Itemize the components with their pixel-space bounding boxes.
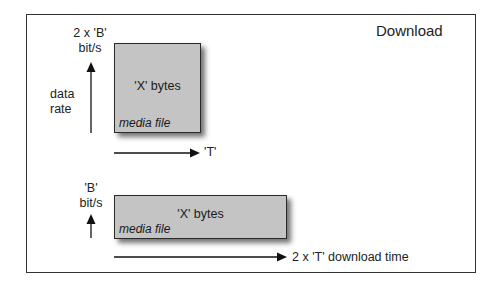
bottom-horizontal-arrow-icon — [114, 253, 287, 262]
top-horizontal-arrow-icon — [114, 149, 200, 158]
arrows-layer — [0, 0, 501, 291]
top-vertical-arrow-icon — [87, 62, 96, 133]
bottom-vertical-arrow-icon — [87, 214, 96, 238]
